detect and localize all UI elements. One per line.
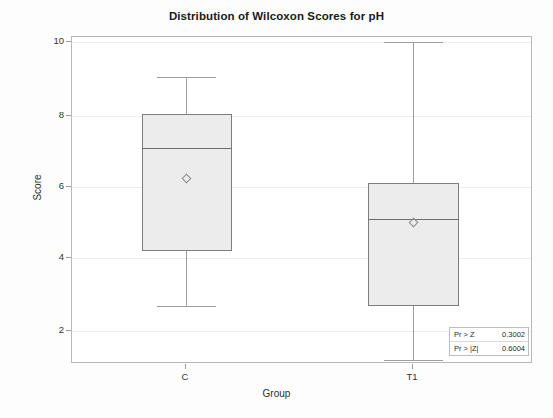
x-tick-mark-t1 (412, 364, 413, 369)
whisker-upper-cap-t1 (384, 42, 443, 43)
y-tick-label-8: 8 (22, 110, 64, 120)
y-axis-title: Score (32, 143, 43, 233)
stat-value-pr-abs-z: 0.6004 (488, 343, 525, 354)
box-t1 (368, 183, 459, 306)
whisker-lower-line-t1 (413, 306, 414, 360)
whisker-upper-line-t1 (413, 42, 414, 183)
boxplot-figure: Distribution of Wilcoxon Scores for pH 1… (0, 0, 553, 418)
gridline-4 (72, 258, 531, 259)
stat-label-pr-abs-z: Pr > |Z| (454, 343, 488, 354)
x-axis-title: Group (0, 388, 553, 399)
y-tick-label-6: 6 (22, 181, 64, 191)
gridline-10 (72, 42, 531, 43)
y-tick-label-4: 4 (22, 252, 64, 262)
whisker-upper-line-c (186, 77, 187, 114)
x-tick-label-c: C (155, 371, 215, 382)
x-tick-mark-c (185, 364, 186, 369)
gridline-6 (72, 187, 531, 188)
stat-row-pr-z: Pr > Z 0.3002 (450, 328, 528, 341)
whisker-lower-cap-c (157, 306, 216, 307)
stat-label-pr-z: Pr > Z (454, 329, 488, 340)
y-tick-label-10: 10 (22, 36, 64, 46)
stat-row-pr-abs-z: Pr > |Z| 0.6004 (450, 341, 528, 355)
stat-value-pr-z: 0.3002 (488, 329, 525, 340)
plot-area (71, 36, 532, 363)
whisker-upper-cap-c (157, 77, 216, 78)
whisker-lower-cap-t1 (384, 360, 443, 361)
median-line-c (142, 148, 232, 149)
gridline-8 (72, 116, 531, 117)
page-title: Distribution of Wilcoxon Scores for pH (0, 10, 553, 22)
y-tick-label-2: 2 (22, 325, 64, 335)
whisker-lower-line-c (186, 251, 187, 306)
x-tick-label-t1: T1 (382, 371, 442, 382)
statistics-panel: Pr > Z 0.3002 Pr > |Z| 0.6004 (449, 327, 529, 356)
